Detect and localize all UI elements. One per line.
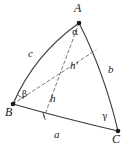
altitude-label-h-prime: h′ xyxy=(70,60,78,71)
arc-side-b xyxy=(79,23,118,131)
altitude-label-h: h xyxy=(50,93,56,104)
side-label-c: c xyxy=(28,48,33,59)
spherical-triangle-figure: A B C α β γ a b c h h′ xyxy=(0,0,133,155)
angle-label-gamma: γ xyxy=(102,112,107,121)
vertex-label-C: C xyxy=(112,133,120,145)
vertex-dot-A xyxy=(77,21,82,26)
side-label-b: b xyxy=(108,64,114,75)
vertex-label-A: A xyxy=(74,2,81,14)
side-label-a: a xyxy=(54,129,60,140)
prime-mark-icon: ′ xyxy=(76,59,78,71)
angle-label-beta: β xyxy=(22,90,27,99)
angle-label-alpha: α xyxy=(72,28,78,37)
vertex-label-B: B xyxy=(5,106,12,118)
